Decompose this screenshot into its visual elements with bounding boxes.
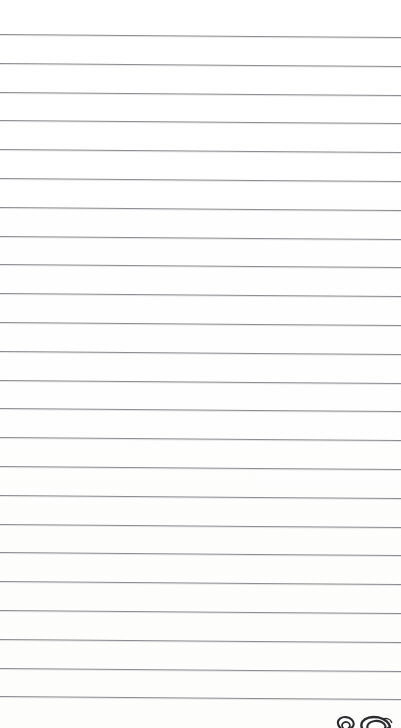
lined-paper-page xyxy=(0,0,401,728)
rule-line xyxy=(0,524,401,528)
rule-line xyxy=(0,495,401,499)
rule-line xyxy=(0,696,401,700)
ruled-lines-group xyxy=(0,0,401,728)
rule-line xyxy=(0,380,401,384)
rule-line xyxy=(0,207,401,211)
rule-line xyxy=(0,552,401,556)
rule-line xyxy=(0,120,401,124)
rule-line xyxy=(0,34,401,38)
rule-line xyxy=(0,610,401,614)
rule-line xyxy=(0,63,401,67)
rule-line xyxy=(0,178,401,182)
rule-line xyxy=(0,149,401,153)
rule-line xyxy=(0,581,401,585)
rule-line xyxy=(0,466,401,470)
rule-line xyxy=(0,408,401,412)
rule-line xyxy=(0,639,401,643)
rule-line xyxy=(0,264,401,268)
rule-line xyxy=(0,351,401,355)
rule-line xyxy=(0,668,401,672)
rule-line xyxy=(0,322,401,326)
rule-line xyxy=(0,437,401,441)
rule-line xyxy=(0,293,401,297)
rule-line xyxy=(0,92,401,96)
rule-line xyxy=(0,236,401,240)
